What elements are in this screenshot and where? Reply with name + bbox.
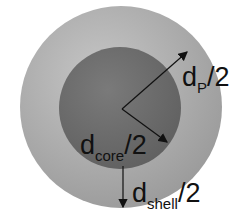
particle-diameter-label: dP/2 — [182, 64, 230, 91]
core-diameter-label: dcore/2 — [80, 132, 147, 159]
label-main: d — [80, 130, 95, 160]
core-shell-diagram — [0, 0, 244, 219]
label-subscript: shell — [147, 195, 178, 212]
label-suffix: /2 — [124, 130, 147, 160]
label-subscript: P — [197, 79, 207, 96]
shell-thickness-label: dshell/2 — [132, 180, 200, 207]
label-suffix: /2 — [178, 178, 201, 208]
label-main: d — [182, 62, 197, 92]
label-subscript: core — [95, 147, 124, 164]
label-suffix: /2 — [207, 62, 230, 92]
label-main: d — [132, 178, 147, 208]
